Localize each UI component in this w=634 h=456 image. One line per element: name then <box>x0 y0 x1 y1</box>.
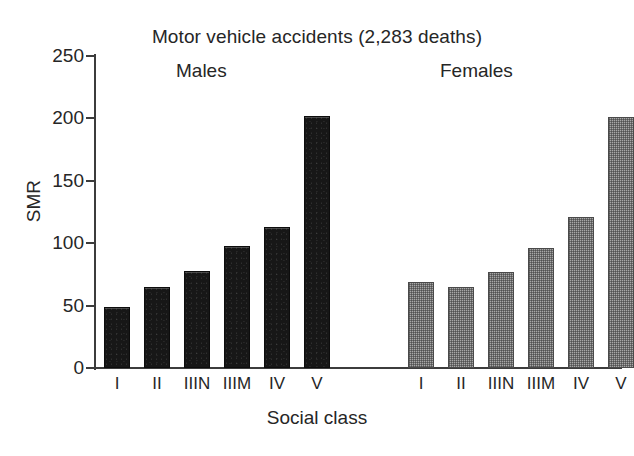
bar-males-iv <box>264 227 290 368</box>
x-tick-label: V <box>295 374 339 394</box>
bar-males-iiim <box>224 246 250 368</box>
x-tick-label: IIIN <box>479 374 523 394</box>
x-tick-label: II <box>135 374 179 394</box>
x-tick-label: II <box>439 374 483 394</box>
motor-vehicle-accidents-bar-chart: Motor vehicle accidents (2,283 deaths) M… <box>0 0 634 456</box>
x-tick-label: IIIM <box>519 374 563 394</box>
bar-males-ii <box>144 287 170 368</box>
bar-females-iv <box>568 217 594 368</box>
bar-males-v <box>304 116 330 368</box>
x-tick-label: I <box>399 374 443 394</box>
bar-females-i <box>408 282 434 368</box>
bar-females-v <box>608 117 634 368</box>
x-tick-label: V <box>599 374 634 394</box>
bar-males-i <box>104 307 130 368</box>
bar-males-iiin <box>184 271 210 368</box>
x-tick-label: IIIN <box>175 374 219 394</box>
bar-females-iiim <box>528 248 554 368</box>
bar-females-iiin <box>488 272 514 368</box>
bar-females-ii <box>448 287 474 368</box>
x-tick-label: IV <box>559 374 603 394</box>
x-tick-label: I <box>95 374 139 394</box>
x-tick-label: IV <box>255 374 299 394</box>
x-tick-label: IIIM <box>215 374 259 394</box>
